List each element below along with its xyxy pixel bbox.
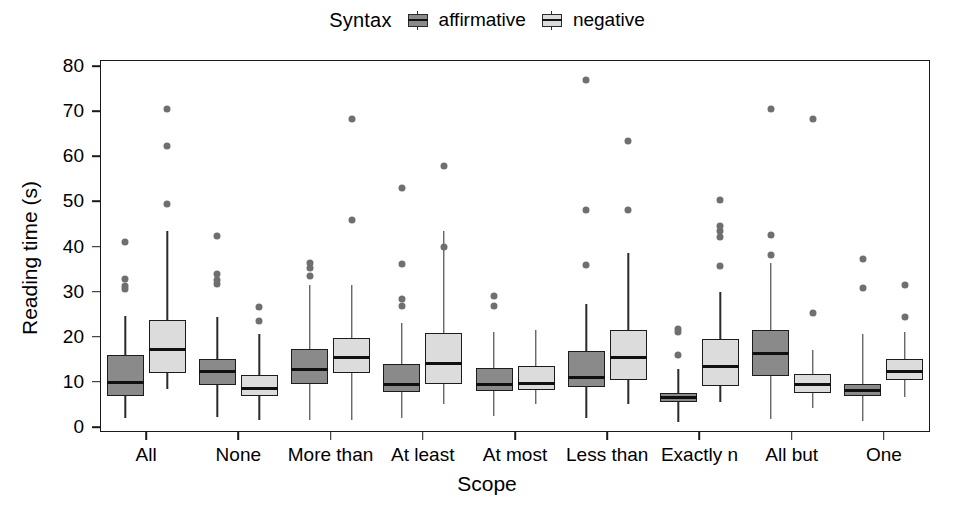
x-tick-mark	[238, 432, 240, 440]
x-tick-label: All	[136, 444, 157, 466]
y-tick-label: 30	[63, 281, 84, 303]
x-tick-label: More than	[288, 444, 374, 466]
x-tick-mark	[514, 432, 516, 440]
boxplot-negative-one	[100, 60, 930, 432]
y-tick-mark	[92, 426, 100, 428]
y-tick-label: 50	[63, 190, 84, 212]
y-tick-mark	[92, 201, 100, 203]
legend-key-boxplot-icon	[540, 11, 564, 30]
x-axis-title: Scope	[0, 472, 974, 496]
y-tick-label: 40	[63, 236, 84, 258]
x-tick-mark	[883, 432, 885, 440]
outlier-point	[901, 282, 908, 289]
whisker-upper	[904, 332, 905, 359]
y-axis: 01020304050607080	[0, 0, 84, 524]
y-tick-label: 80	[63, 55, 84, 77]
x-tick-mark	[422, 432, 424, 440]
x-tick-mark	[330, 432, 332, 440]
y-tick-label: 10	[63, 371, 84, 393]
x-tick-label: Less than	[566, 444, 648, 466]
y-tick-mark	[92, 155, 100, 157]
outlier-point	[901, 313, 908, 320]
chart-legend: Syntax affirmative negative	[0, 4, 974, 36]
y-tick-label: 20	[63, 326, 84, 348]
y-tick-mark	[92, 65, 100, 67]
y-tick-mark	[92, 110, 100, 112]
y-tick-mark	[92, 246, 100, 248]
x-tick-label: None	[216, 444, 261, 466]
y-tick-mark	[92, 381, 100, 383]
legend-key-boxplot-icon	[406, 11, 430, 30]
x-tick-label: All but	[765, 444, 818, 466]
x-tick-mark	[791, 432, 793, 440]
chart-root: Syntax affirmative negative Reading time…	[0, 0, 974, 524]
x-tick-mark	[606, 432, 608, 440]
y-tick-label: 0	[73, 416, 84, 438]
y-tick-label: 60	[63, 145, 84, 167]
x-tick-label: At most	[483, 444, 547, 466]
x-tick-label: Exactly n	[661, 444, 738, 466]
legend-title: Syntax	[329, 9, 391, 32]
whisker-lower	[904, 380, 905, 397]
plot-area	[100, 60, 930, 432]
y-tick-mark	[92, 336, 100, 338]
x-tick-label: At least	[391, 444, 454, 466]
legend-entry-negative: negative	[540, 9, 645, 31]
x-tick-mark	[699, 432, 701, 440]
x-tick-mark	[145, 432, 147, 440]
y-tick-label: 70	[63, 100, 84, 122]
y-tick-mark	[92, 291, 100, 293]
legend-label-affirmative: affirmative	[439, 9, 526, 31]
median-line	[886, 370, 923, 373]
x-tick-label: One	[866, 444, 902, 466]
legend-label-negative: negative	[573, 9, 645, 31]
legend-entry-affirmative: affirmative	[406, 9, 526, 31]
